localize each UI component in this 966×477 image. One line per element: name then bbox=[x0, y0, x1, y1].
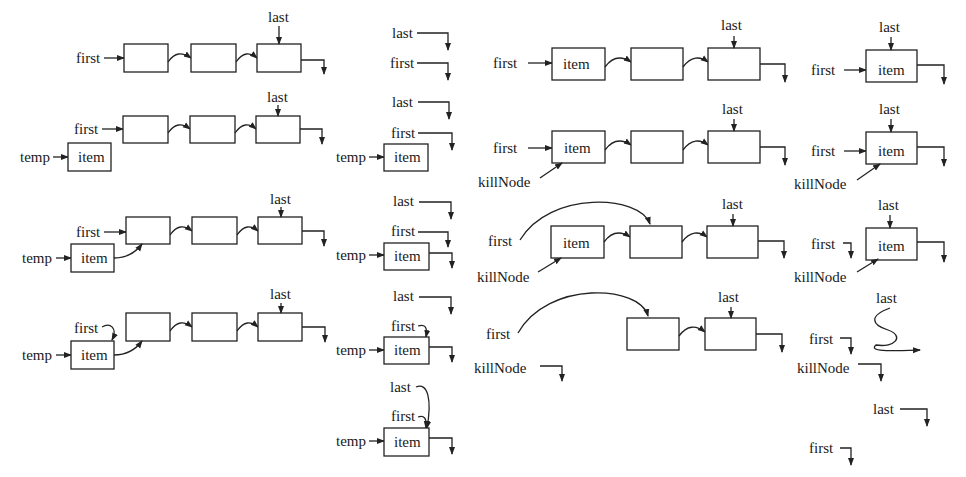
item-label: item bbox=[563, 56, 590, 72]
list-node bbox=[707, 226, 758, 258]
item-label: item bbox=[878, 143, 905, 159]
first-label: first bbox=[486, 326, 511, 342]
step-b1: last first bbox=[390, 25, 448, 80]
first-label: first bbox=[74, 320, 99, 336]
last-label: last bbox=[270, 286, 292, 302]
first-label: first bbox=[74, 121, 99, 137]
last-label: last bbox=[392, 94, 414, 110]
step-d3: first item last killNode bbox=[794, 197, 944, 285]
item-label: item bbox=[394, 149, 421, 165]
last-label: last bbox=[879, 101, 901, 117]
item-label: item bbox=[564, 140, 591, 156]
panel-remove-single: first item last first item last killNode… bbox=[794, 19, 944, 465]
list-node bbox=[123, 116, 168, 143]
step-a2: first last temp item bbox=[20, 89, 322, 171]
step-d4: last first killNode bbox=[797, 290, 920, 381]
last-label: last bbox=[876, 290, 898, 306]
item-label: item bbox=[563, 235, 590, 251]
first-label: first bbox=[809, 440, 834, 456]
last-label: last bbox=[879, 19, 901, 35]
step-c2: first item last killNode bbox=[478, 101, 785, 190]
first-label: first bbox=[811, 62, 836, 78]
step-a3: first last temp item bbox=[22, 191, 324, 272]
killnode-label: killNode bbox=[478, 174, 531, 190]
list-node bbox=[631, 131, 683, 163]
panel-insert-nonempty: first last first last temp it bbox=[20, 9, 325, 369]
step-c1: first item last bbox=[493, 17, 785, 82]
first-label: first bbox=[76, 224, 101, 240]
list-node bbox=[258, 217, 302, 244]
list-node bbox=[256, 116, 300, 143]
list-node bbox=[190, 116, 235, 143]
last-label: last bbox=[393, 288, 415, 304]
item-label: item bbox=[878, 238, 905, 254]
panel-remove-multi: first item last first item last killN bbox=[474, 17, 785, 381]
list-node bbox=[258, 313, 302, 341]
first-label: first bbox=[391, 125, 416, 141]
first-label: first bbox=[811, 143, 836, 159]
last-label: last bbox=[722, 101, 744, 117]
panel-insert-empty: last first last first temp item last fir… bbox=[336, 25, 452, 456]
temp-label: temp bbox=[22, 347, 52, 363]
first-label: first bbox=[488, 233, 513, 249]
killnode-label: killNode bbox=[794, 176, 847, 192]
last-label: last bbox=[718, 289, 740, 305]
list-node bbox=[705, 318, 756, 350]
first-label: first bbox=[811, 236, 836, 252]
list-node bbox=[192, 217, 237, 244]
list-node bbox=[126, 313, 170, 341]
killnode-label: killNode bbox=[794, 269, 847, 285]
killnode-label: killNode bbox=[477, 269, 530, 285]
step-a1: first last bbox=[76, 9, 324, 74]
step-c3: first item last killNode bbox=[477, 196, 784, 285]
step-b2: last first temp item bbox=[336, 94, 452, 171]
step-a4: first last temp item bbox=[22, 286, 325, 369]
killnode-label: killNode bbox=[474, 360, 527, 376]
first-label: first bbox=[76, 50, 101, 66]
item-label: item bbox=[81, 250, 108, 266]
item-label: item bbox=[878, 62, 905, 78]
step-c4: first last killNode bbox=[474, 289, 782, 381]
step-b5: last first temp item bbox=[336, 379, 452, 456]
step-b4: last first temp item bbox=[336, 288, 452, 364]
last-label: last bbox=[267, 89, 289, 105]
list-node bbox=[708, 48, 760, 80]
linked-list-diagram: first last first last temp it bbox=[0, 0, 966, 477]
temp-label: temp bbox=[336, 247, 366, 263]
temp-label: temp bbox=[336, 433, 366, 449]
first-label: first bbox=[493, 140, 518, 156]
step-b3: last first temp item bbox=[336, 193, 452, 270]
last-label: last bbox=[390, 379, 412, 395]
first-label: first bbox=[391, 223, 416, 239]
last-label: last bbox=[873, 401, 895, 417]
item-label: item bbox=[394, 342, 421, 358]
last-label: last bbox=[721, 17, 743, 33]
item-label: item bbox=[394, 434, 421, 450]
temp-label: temp bbox=[22, 250, 52, 266]
last-label: last bbox=[270, 191, 292, 207]
item-label: item bbox=[78, 149, 105, 165]
first-label: first bbox=[493, 55, 518, 71]
list-node bbox=[631, 48, 683, 80]
last-label: last bbox=[722, 196, 744, 212]
step-d5: last first bbox=[809, 401, 927, 465]
list-node bbox=[630, 226, 682, 258]
step-d1: first item last bbox=[811, 19, 944, 84]
list-node bbox=[124, 44, 168, 72]
list-node bbox=[627, 318, 679, 350]
list-node bbox=[708, 131, 760, 163]
list-node bbox=[191, 44, 236, 72]
temp-label: temp bbox=[336, 149, 366, 165]
last-label: last bbox=[393, 193, 415, 209]
first-label: first bbox=[390, 55, 415, 71]
first-label: first bbox=[809, 331, 834, 347]
temp-label: temp bbox=[336, 342, 366, 358]
last-label: last bbox=[878, 197, 900, 213]
item-label: item bbox=[394, 248, 421, 264]
last-label: last bbox=[268, 9, 290, 25]
temp-label: temp bbox=[20, 149, 50, 165]
killnode-label: killNode bbox=[797, 360, 850, 376]
first-label: first bbox=[391, 408, 416, 424]
list-node bbox=[257, 44, 301, 72]
item-label: item bbox=[81, 347, 108, 363]
